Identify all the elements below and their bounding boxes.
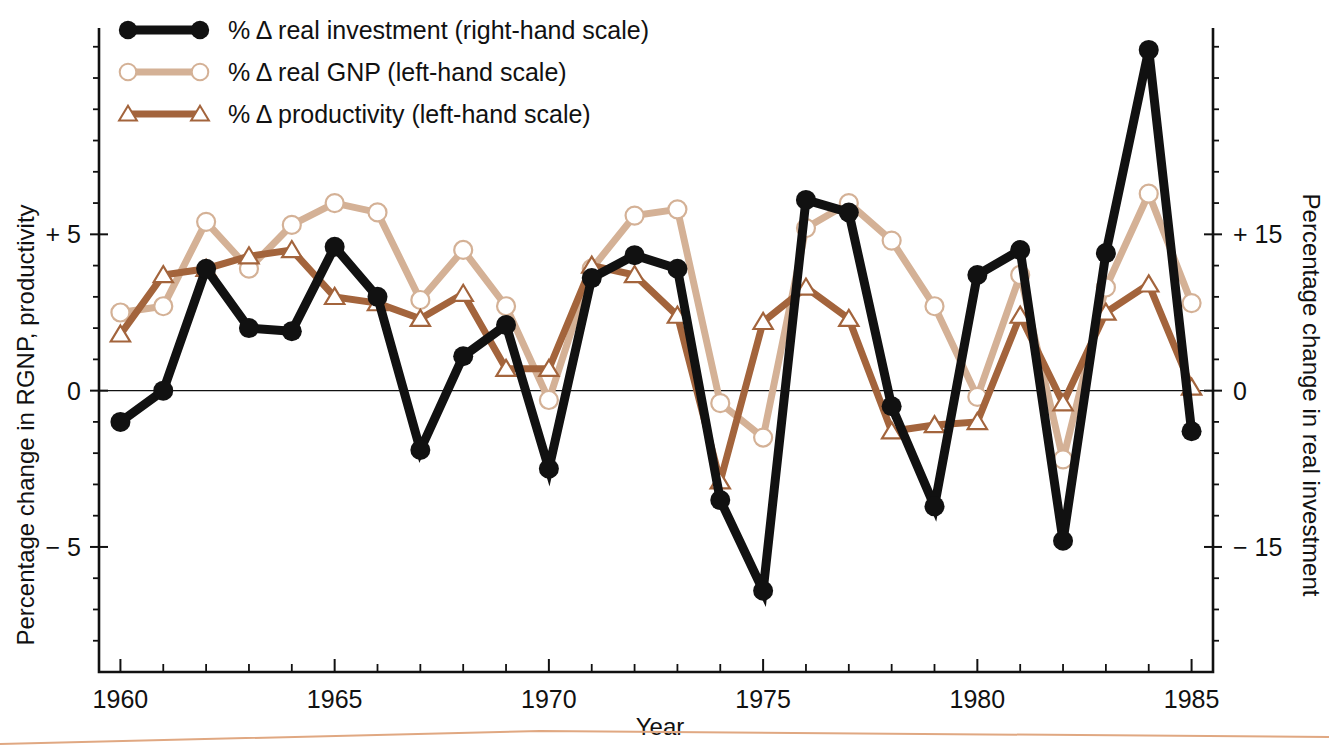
x-axis-tick-label: 1965: [307, 685, 363, 713]
y-axis-right-tick-label: − 15: [1233, 533, 1282, 561]
x-axis-tick-label: 1960: [93, 685, 149, 713]
y-axis-left-tick-label: 0: [67, 377, 81, 405]
x-axis-tick-label: 1980: [950, 685, 1006, 713]
legend-label: % Δ real GNP (left-hand scale): [228, 58, 567, 86]
legend-label: % Δ real investment (right-hand scale): [228, 16, 649, 44]
x-axis-tick-label: 1975: [735, 685, 791, 713]
x-axis-tick-label: 1970: [521, 685, 577, 713]
line-chart-svg: − 50+ 5− 150+ 15196019651970197519801985…: [0, 0, 1329, 751]
y-axis-right-title: Percentage change in real investment: [1298, 194, 1325, 597]
chart-figure: − 50+ 5− 150+ 15196019651970197519801985…: [0, 0, 1329, 751]
x-axis-title: Year: [636, 713, 685, 740]
y-axis-left-tick-label: + 5: [46, 220, 81, 248]
y-axis-right-tick-label: 0: [1233, 377, 1247, 405]
y-axis-right-tick-label: + 15: [1233, 220, 1282, 248]
y-axis-left-tick-label: − 5: [46, 533, 81, 561]
x-axis-tick-label: 1985: [1164, 685, 1220, 713]
y-axis-left-title: Percentage change in RGNP, productivity: [12, 204, 39, 645]
legend-label: % Δ productivity (left-hand scale): [228, 100, 591, 128]
